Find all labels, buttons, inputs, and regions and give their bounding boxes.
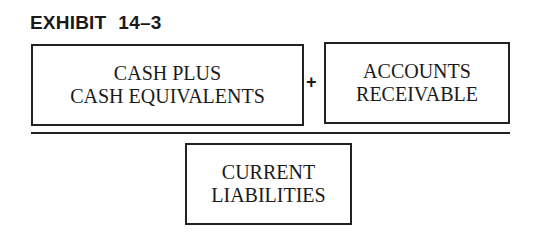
plus-operator: +	[306, 72, 317, 93]
cash-equivalents-box: CASH PLUS CASH EQUIVALENTS	[31, 44, 304, 126]
exhibit-title: EXHIBIT14–3	[30, 12, 161, 34]
box-line: CASH EQUIVALENTS	[70, 85, 265, 108]
accounts-receivable-box: ACCOUNTS RECEIVABLE	[324, 42, 510, 124]
exhibit-number: 14–3	[118, 12, 161, 33]
box-line: ACCOUNTS	[363, 60, 471, 83]
fraction-divider	[31, 132, 510, 134]
box-line: RECEIVABLE	[356, 83, 478, 106]
box-line: CURRENT	[222, 161, 315, 184]
box-line: CASH PLUS	[114, 62, 221, 85]
current-liabilities-box: CURRENT LIABILITIES	[185, 143, 352, 225]
box-line: LIABILITIES	[211, 184, 325, 207]
exhibit-label: EXHIBIT	[30, 12, 106, 33]
